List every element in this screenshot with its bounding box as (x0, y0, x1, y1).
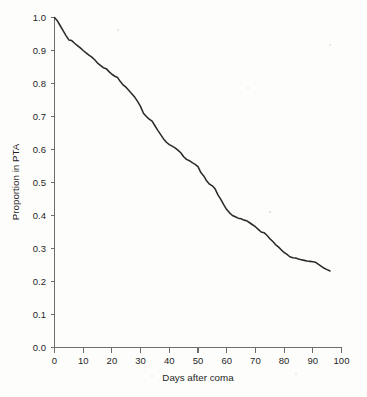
y-tick-label: 0.3 (33, 243, 46, 254)
figure-container: 0.0 0.1 0.2 0.3 0.4 0.5 0.6 0.7 0.8 0.9 … (0, 0, 367, 397)
y-tick-label: 0.8 (33, 78, 46, 89)
x-tick-label: 0 (52, 355, 57, 366)
y-tick-label: 0.2 (33, 276, 46, 287)
y-tick-label: 0.7 (33, 111, 46, 122)
y-tick-label: 1.0 (33, 12, 46, 23)
y-tick-label: 0.5 (33, 177, 46, 188)
x-axis-ticks: 0 10 20 30 40 50 60 70 80 90 100 (52, 348, 350, 367)
x-tick-label: 80 (279, 355, 290, 366)
y-tick-label: 0.6 (33, 144, 46, 155)
x-tick-label: 50 (193, 355, 204, 366)
y-tick-label: 0.1 (33, 309, 46, 320)
x-tick-label: 30 (135, 355, 146, 366)
x-tick-label: 60 (221, 355, 232, 366)
x-tick-label: 70 (250, 355, 261, 366)
x-tick-label: 90 (308, 355, 319, 366)
x-tick-label: 10 (78, 355, 89, 366)
y-tick-label: 0.0 (33, 342, 46, 353)
survival-curve-line (55, 18, 331, 271)
scan-speckle-group (117, 29, 331, 376)
y-tick-label: 0.9 (33, 45, 46, 56)
y-axis-ticks: 0.0 0.1 0.2 0.3 0.4 0.5 0.6 0.7 0.8 0.9 … (33, 12, 55, 353)
x-tick-label: 20 (107, 355, 118, 366)
y-tick-label: 0.4 (33, 210, 46, 221)
y-axis-title: Proportion in PTA (10, 143, 21, 220)
survival-curve-chart: 0.0 0.1 0.2 0.3 0.4 0.5 0.6 0.7 0.8 0.9 … (0, 0, 367, 397)
x-axis-title: Days after coma (162, 372, 234, 383)
x-tick-label: 40 (164, 355, 175, 366)
x-tick-label: 100 (334, 355, 350, 366)
